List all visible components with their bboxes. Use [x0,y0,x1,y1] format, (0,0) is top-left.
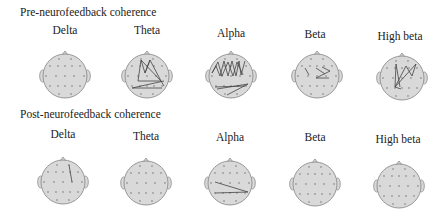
coherence-head-maps [0,0,438,211]
post-theta-head [121,158,172,205]
pre-theta-head [122,51,173,98]
post-high-beta-head [374,161,425,208]
post-alpha-head [205,158,256,205]
pre-high-beta-head [377,53,428,100]
post-beta-head [290,159,341,206]
pre-delta-head [40,51,91,98]
pre-beta-head [292,51,343,98]
pre-alpha-head [206,51,257,98]
post-delta-head [38,157,89,204]
